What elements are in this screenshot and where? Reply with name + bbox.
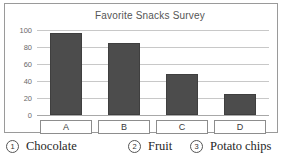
- answer-option-3[interactable]: 3Potato chips: [190, 139, 271, 154]
- bar: [166, 74, 198, 115]
- category-label-a: A: [40, 120, 92, 134]
- answer-option-1[interactable]: 1Chocolate: [6, 139, 77, 154]
- option-label: Fruit: [148, 139, 172, 154]
- y-axis-tick-label: 100: [19, 26, 32, 35]
- option-label: Chocolate: [26, 139, 77, 154]
- y-axis-tick-label: 20: [24, 94, 32, 103]
- option-number-badge: 2: [128, 140, 141, 153]
- option-label: Potato chips: [210, 139, 271, 154]
- answer-option-2[interactable]: 2Fruit: [128, 139, 172, 154]
- y-axis-tick-label: 80: [24, 43, 32, 52]
- category-label-c: C: [156, 120, 208, 134]
- y-axis-tick-label: 40: [24, 77, 32, 86]
- screenshot-root: Favorite Snacks Survey 020406080100 ABCD…: [0, 0, 286, 156]
- category-label-row: ABCD: [37, 120, 269, 134]
- category-label-d: D: [214, 120, 266, 134]
- option-number-badge: 3: [190, 140, 203, 153]
- chart-frame: Favorite Snacks Survey 020406080100 ABCD: [4, 3, 278, 133]
- chart-title: Favorite Snacks Survey: [5, 10, 277, 21]
- y-axis-tick-label: 0: [28, 111, 32, 120]
- gridline: [37, 30, 269, 31]
- category-label-b: B: [98, 120, 150, 134]
- gridline: [37, 115, 269, 116]
- bar: [50, 33, 82, 115]
- answer-options-row: 1Chocolate2Fruit3Potato chips: [0, 137, 286, 156]
- option-number-badge: 1: [6, 140, 19, 153]
- bar: [224, 94, 256, 115]
- bar: [108, 43, 140, 115]
- plot-area: 020406080100: [37, 30, 269, 115]
- y-axis-tick-label: 60: [24, 60, 32, 69]
